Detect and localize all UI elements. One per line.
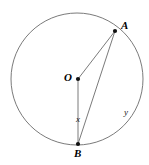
angle-label-x: x	[76, 115, 80, 124]
point-label-o: O	[64, 72, 72, 83]
point-label-a: A	[121, 20, 128, 31]
point-label-b: B	[74, 148, 81, 159]
chord-ab-segment	[78, 31, 115, 144]
geometry-figure: A O B x y	[0, 0, 149, 165]
radius-oa-segment	[78, 31, 115, 79]
point-b-dot	[76, 142, 80, 146]
point-o-dot	[76, 77, 80, 81]
arc-label-y: y	[124, 108, 128, 117]
point-a-dot	[113, 29, 117, 33]
